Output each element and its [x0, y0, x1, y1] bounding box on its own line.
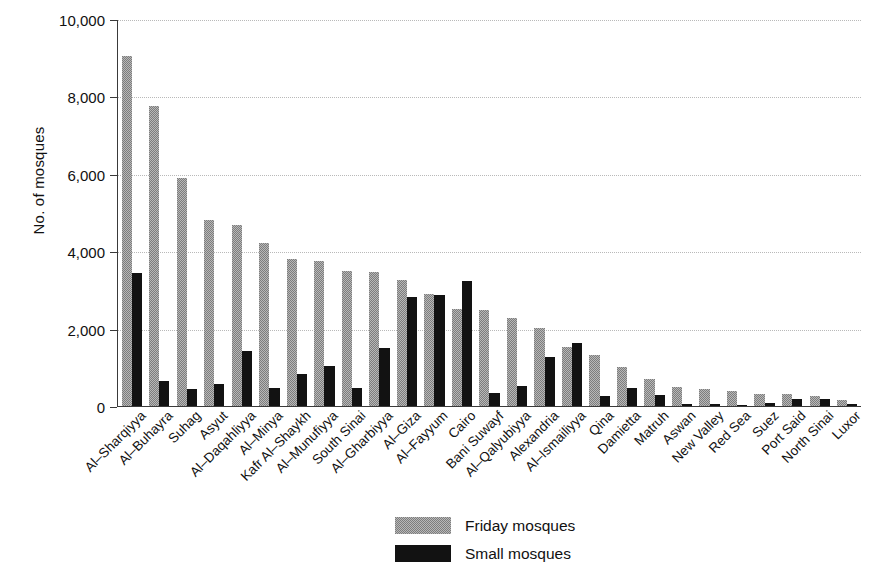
legend-item: Friday mosques	[395, 516, 695, 535]
bar-group	[562, 20, 582, 406]
bar-group	[397, 20, 417, 406]
bar-group	[177, 20, 197, 406]
bar-small	[572, 343, 582, 406]
y-axis-tick-label: 6,000	[67, 166, 105, 183]
bar-small	[187, 389, 197, 406]
bar-friday	[314, 261, 324, 406]
bar-friday	[782, 394, 792, 406]
bar-friday	[287, 259, 297, 406]
bar-group	[754, 20, 774, 406]
legend-swatch-friday	[395, 517, 451, 534]
bar-group	[589, 20, 609, 406]
bar-group	[617, 20, 637, 406]
bar-small	[242, 351, 252, 406]
bar-small	[159, 381, 169, 406]
y-axis-tick-mark	[110, 407, 117, 408]
bar-small	[434, 295, 444, 406]
y-axis-tick-mark	[110, 252, 117, 253]
bar-small	[627, 388, 637, 406]
bar-series-container	[118, 20, 861, 406]
bar-group	[727, 20, 747, 406]
bar-small	[297, 374, 307, 406]
bar-small	[379, 348, 389, 406]
y-axis-tick-label: 4,000	[67, 244, 105, 261]
bar-friday	[672, 387, 682, 406]
bar-small	[517, 386, 527, 406]
bar-group	[259, 20, 279, 406]
bar-small	[600, 396, 610, 406]
y-axis-tick-mark	[110, 20, 117, 21]
bar-group	[424, 20, 444, 406]
bar-small	[682, 404, 692, 406]
bar-group	[507, 20, 527, 406]
y-axis-tick-label: 10,000	[59, 12, 105, 29]
bar-small	[765, 403, 775, 406]
bar-small	[462, 281, 472, 406]
legend-label: Small mosques	[465, 545, 571, 563]
bar-group	[672, 20, 692, 406]
bar-group	[149, 20, 169, 406]
bar-small	[214, 384, 224, 406]
y-axis-title: No. of mosques	[30, 81, 47, 281]
bar-group	[369, 20, 389, 406]
chart-legend: Friday mosquesSmall mosques	[395, 516, 695, 572]
bar-group	[837, 20, 857, 406]
bar-group	[699, 20, 719, 406]
y-axis-tick-mark	[110, 97, 117, 98]
bar-friday	[617, 367, 627, 406]
bar-group	[534, 20, 554, 406]
bar-friday	[424, 294, 434, 406]
bar-group	[479, 20, 499, 406]
bar-group	[204, 20, 224, 406]
bar-small	[407, 297, 417, 406]
bar-friday	[727, 391, 737, 406]
bar-friday	[534, 328, 544, 406]
bar-chart-figure: No. of mosques 02,0004,0006,0008,00010,0…	[0, 0, 883, 588]
bar-small	[545, 357, 555, 406]
bar-friday	[452, 309, 462, 406]
bar-group	[122, 20, 142, 406]
bar-small	[792, 399, 802, 406]
bar-friday	[397, 280, 407, 406]
bar-friday	[204, 220, 214, 406]
bar-group	[287, 20, 307, 406]
bar-small	[737, 405, 747, 406]
bar-friday	[589, 355, 599, 406]
bar-small	[324, 366, 334, 406]
bar-friday	[342, 271, 352, 406]
bar-group	[810, 20, 830, 406]
y-axis-tick-label: 2,000	[67, 321, 105, 338]
bar-small	[820, 399, 830, 406]
bar-friday	[810, 396, 820, 406]
bar-friday	[149, 106, 159, 406]
bar-small	[710, 404, 720, 406]
bar-small	[847, 404, 857, 406]
bar-friday	[232, 225, 242, 406]
bar-friday	[259, 243, 269, 406]
bar-friday	[369, 272, 379, 406]
bar-friday	[177, 178, 187, 406]
x-axis-line	[117, 406, 861, 407]
bar-group	[232, 20, 252, 406]
bar-group	[782, 20, 802, 406]
legend-label: Friday mosques	[465, 517, 575, 535]
bar-small	[489, 393, 499, 406]
bar-small	[655, 395, 665, 406]
bar-friday	[837, 400, 847, 406]
bar-group	[644, 20, 664, 406]
bar-small	[269, 388, 279, 406]
y-axis-tick-mark	[110, 330, 117, 331]
y-axis-tick-mark	[110, 175, 117, 176]
bar-friday	[479, 310, 489, 406]
bar-friday	[122, 56, 132, 406]
legend-item: Small mosques	[395, 544, 695, 563]
bar-group	[314, 20, 334, 406]
bar-friday	[507, 318, 517, 406]
y-axis-tick-label: 8,000	[67, 89, 105, 106]
bar-small	[352, 388, 362, 406]
bar-group	[342, 20, 362, 406]
x-axis-tick-labels: Al–SharqiyyaAl–BuhayraSuhagAsyutAl–Daqah…	[118, 408, 862, 518]
bar-small	[132, 273, 142, 407]
y-axis-tick-label: 0	[97, 399, 105, 416]
bar-group	[452, 20, 472, 406]
